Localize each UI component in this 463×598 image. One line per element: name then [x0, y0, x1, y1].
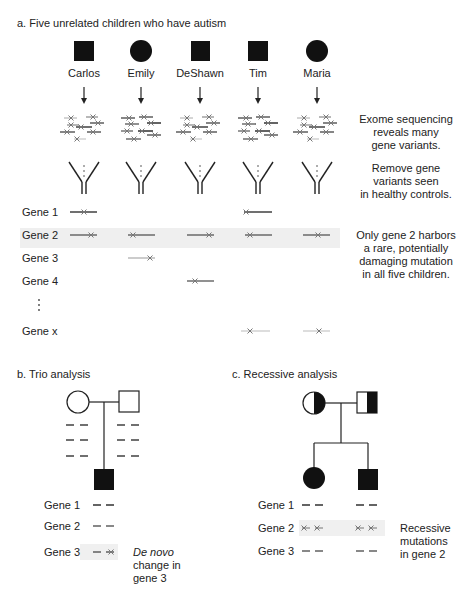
child-name-carlos: Carlos [59, 67, 109, 80]
affected-son-symbol [94, 469, 114, 490]
affected-daughter-symbol [303, 467, 325, 489]
child-symbol-carlos [74, 41, 94, 61]
child-name-tim: Tim [233, 67, 283, 80]
step1-note: Exome sequencing reveals many gene varia… [350, 113, 462, 152]
recessive-gene-label-3: Gene 3 [258, 545, 294, 558]
child-symbol-emily [130, 40, 152, 62]
arrow-icon [197, 87, 203, 104]
gene-label-3: Gene 3 [22, 252, 58, 265]
child-name-emily: Emily [116, 67, 166, 80]
child-symbol-tim [248, 41, 268, 61]
trio-gene-label-2: Gene 2 [44, 520, 80, 533]
arrow-icon [138, 87, 144, 104]
affected-son-symbol [358, 469, 378, 490]
panel-b-title: b. Trio analysis [17, 368, 90, 381]
panel-c-title: c. Recessive analysis [232, 368, 337, 381]
child-name-maria: Maria [292, 67, 342, 80]
trio-gene-label-3: Gene 3 [44, 546, 80, 559]
gene-label-1: Gene 1 [22, 206, 58, 219]
recessive-gene-label-1: Gene 1 [258, 499, 294, 512]
child-symbol-maria [306, 40, 328, 62]
child-name-deshawn: DeShawn [172, 67, 228, 80]
father-symbol [119, 391, 139, 412]
arrow-icon [255, 87, 261, 104]
result-note: Only gene 2 harbors a rare, potentially … [350, 229, 462, 281]
arrow-icon [314, 87, 320, 104]
mother-symbol [67, 391, 89, 413]
panel-a-title: a. Five unrelated children who have auti… [17, 17, 226, 30]
trio-note: De novo change in gene 3 [133, 546, 181, 585]
arrow-icon [81, 87, 87, 104]
gene-label-4: Gene 4 [22, 275, 58, 288]
child-symbol-deshawn [191, 41, 210, 61]
recessive-gene-label-2: Gene 2 [258, 522, 294, 535]
trio-gene-label-1: Gene 1 [44, 499, 80, 512]
step2-note: Remove gene variants seen in healthy con… [350, 162, 462, 201]
gene-label-2: Gene 2 [22, 229, 58, 242]
gene-label-x: Gene x [22, 325, 57, 338]
recessive-note: Recessive mutations in gene 2 [400, 522, 451, 561]
